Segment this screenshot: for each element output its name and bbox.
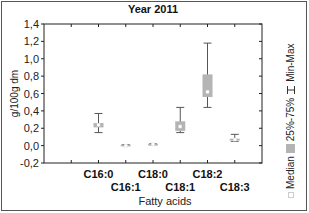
median-marker bbox=[179, 125, 182, 128]
legend-box: 25%-75% bbox=[285, 98, 296, 141]
y-tick-label: 1,4 bbox=[24, 18, 39, 30]
median-marker bbox=[233, 138, 236, 141]
median-marker-icon bbox=[288, 192, 294, 198]
plot-area bbox=[44, 24, 262, 163]
x-tick-label: C18:3 bbox=[220, 181, 250, 193]
box bbox=[203, 74, 213, 97]
y-tick-label: 1,0 bbox=[24, 53, 39, 65]
y-tick-label: 0,6 bbox=[24, 88, 39, 100]
y-tick-label: 0,8 bbox=[24, 70, 39, 82]
x-tick-label: C18:0 bbox=[138, 168, 168, 180]
whisker-icon bbox=[287, 85, 295, 95]
median-marker bbox=[97, 123, 100, 126]
legend: Median 25%-75% Min-Max bbox=[283, 18, 303, 208]
x-axis-label: Fatty acids bbox=[138, 195, 192, 207]
median-marker bbox=[206, 90, 209, 93]
y-tick-label: 0,0 bbox=[24, 140, 39, 152]
box-plot: -0,20,00,20,40,60,81,01,21,4g/100g dmC16… bbox=[0, 0, 309, 213]
x-tick-label: C18:2 bbox=[193, 168, 223, 180]
box-swatch-icon bbox=[286, 144, 295, 153]
y-tick-label: 0,2 bbox=[24, 122, 39, 134]
x-tick-label: C18:1 bbox=[165, 181, 195, 193]
legend-median: Median bbox=[285, 156, 296, 189]
y-tick-label: 0,4 bbox=[24, 105, 39, 117]
y-axis-label: g/100g dm bbox=[9, 70, 20, 117]
median-marker bbox=[124, 144, 127, 147]
y-tick-label: 1,2 bbox=[24, 35, 39, 47]
y-tick-label: -0,2 bbox=[20, 157, 39, 169]
legend-whisker: Min-Max bbox=[285, 43, 296, 81]
median-marker bbox=[152, 143, 155, 146]
x-tick-label: C16:0 bbox=[84, 168, 114, 180]
x-tick-label: C16:1 bbox=[111, 181, 141, 193]
